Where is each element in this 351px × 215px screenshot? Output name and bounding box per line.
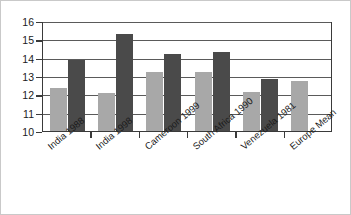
y-tick-label: 15 xyxy=(22,35,34,46)
gridline xyxy=(43,95,331,96)
y-tick-mark xyxy=(36,40,42,41)
bar-chart-figure: 10111213141516 India 1988India 1998Camer… xyxy=(0,0,351,215)
category-tick-mark xyxy=(284,132,285,138)
bar xyxy=(98,93,115,132)
y-axis: 10111213141516 xyxy=(1,1,38,215)
y-tick-label: 16 xyxy=(22,17,34,28)
gridline xyxy=(43,59,331,60)
y-tick-mark xyxy=(36,114,42,115)
gridline xyxy=(43,40,331,41)
y-tick-mark xyxy=(36,22,42,23)
y-tick-label: 10 xyxy=(22,127,34,138)
gridline xyxy=(43,22,331,23)
gridline xyxy=(43,77,331,78)
y-tick-label: 13 xyxy=(22,72,34,83)
y-tick-mark xyxy=(36,132,42,133)
y-tick-mark xyxy=(36,77,42,78)
y-tick-label: 14 xyxy=(22,54,34,65)
category-tick-mark xyxy=(90,132,91,138)
y-tick-mark xyxy=(36,95,42,96)
y-tick-label: 12 xyxy=(22,90,34,101)
category-tick-mark xyxy=(235,132,236,138)
y-tick-mark xyxy=(36,59,42,60)
bar xyxy=(146,72,163,131)
y-tick-label: 11 xyxy=(23,109,34,120)
category-tick-mark xyxy=(187,132,188,138)
bar xyxy=(50,88,67,131)
category-tick-mark xyxy=(139,132,140,138)
